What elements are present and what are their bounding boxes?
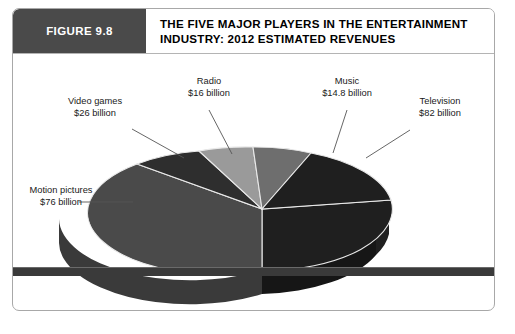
pie-top-face bbox=[88, 147, 393, 275]
label-television-value: $82 billion bbox=[405, 108, 475, 120]
leader-line-television bbox=[366, 130, 410, 158]
label-radio-name: Radio bbox=[176, 76, 242, 88]
label-television: Television $82 billion bbox=[405, 96, 475, 119]
figure-frame: FIGURE 9.8 THE FIVE MAJOR PLAYERS IN THE… bbox=[12, 8, 495, 311]
label-television-name: Television bbox=[405, 96, 475, 108]
figure-bottom-bar bbox=[13, 267, 495, 276]
label-music-value: $14.8 billion bbox=[313, 88, 381, 100]
label-video-games-name: Video games bbox=[57, 96, 133, 108]
figure-number-badge: FIGURE 9.8 bbox=[13, 9, 146, 53]
leader-line-radio bbox=[209, 110, 232, 154]
label-video-games-value: $26 billion bbox=[57, 108, 133, 120]
figure-number-label: FIGURE 9.8 bbox=[46, 25, 113, 37]
label-motion-pictures-value: $76 billion bbox=[19, 197, 103, 209]
figure-title: THE FIVE MAJOR PLAYERS IN THE ENTERTAINM… bbox=[146, 9, 494, 53]
label-radio: Radio $16 billion bbox=[176, 76, 242, 99]
figure-title-line-1: THE FIVE MAJOR PLAYERS IN THE ENTERTAINM… bbox=[160, 16, 494, 31]
label-video-games: Video games $26 billion bbox=[57, 96, 133, 119]
label-motion-pictures-name: Motion pictures bbox=[19, 185, 103, 197]
figure-header: FIGURE 9.8 THE FIVE MAJOR PLAYERS IN THE… bbox=[13, 9, 494, 54]
leader-line-music bbox=[333, 110, 347, 153]
pie-slice-television bbox=[262, 200, 392, 271]
leader-line-video-games bbox=[132, 129, 184, 158]
figure-title-line-2: INDUSTRY: 2012 ESTIMATED REVENUES bbox=[160, 31, 494, 46]
label-music-name: Music bbox=[313, 76, 381, 88]
label-motion-pictures: Motion pictures $76 billion bbox=[19, 185, 103, 208]
label-radio-value: $16 billion bbox=[176, 88, 242, 100]
label-music: Music $14.8 billion bbox=[313, 76, 381, 99]
